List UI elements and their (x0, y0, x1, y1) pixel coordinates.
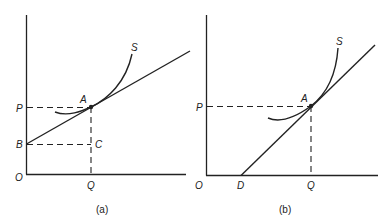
price-label-b: P (196, 102, 203, 113)
supply-curve-a (55, 54, 132, 114)
quantity-label-b: Q (307, 180, 315, 191)
tangent-line-b (241, 45, 375, 176)
intercept-label-a: B (16, 139, 23, 150)
caption-b: (b) (279, 204, 291, 215)
origin-label-b: O (195, 180, 203, 191)
caption-a: (a) (96, 204, 108, 215)
price-label-a: P (16, 103, 23, 114)
point-label-a: A (79, 94, 87, 105)
tangency-point-a (89, 105, 93, 109)
point-label-b: A (300, 93, 308, 104)
intercept-label-b: D (237, 180, 244, 191)
tangency-point-b (309, 104, 313, 108)
curve-label-b: S (336, 36, 343, 47)
origin-label-a: O (15, 172, 23, 183)
supply-curve-b (268, 48, 338, 120)
tangent-line-a (27, 51, 191, 144)
diagram-canvas: O P B Q A C S (a) O P D Q A S (b) (0, 0, 392, 222)
curve-label-a: S (131, 42, 138, 53)
panel-a: O P B Q A C S (a) (15, 15, 190, 215)
panel-b: O P D Q A S (b) (195, 15, 378, 215)
quantity-label-a: Q (87, 180, 95, 191)
corner-label-a: C (95, 139, 103, 150)
